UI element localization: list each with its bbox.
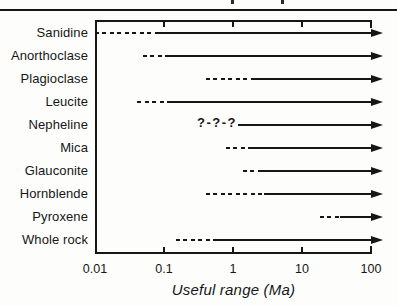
range-dashed-segment xyxy=(226,147,249,149)
arrow-right-icon xyxy=(371,121,383,129)
x-axis-tick-top xyxy=(301,22,303,27)
mineral-label: Plagioclase xyxy=(0,70,88,88)
range-row xyxy=(95,78,385,80)
range-dashed-segment xyxy=(176,239,215,241)
range-dashed-segment xyxy=(243,170,259,172)
range-solid-segment xyxy=(215,239,371,241)
mineral-label: Mica xyxy=(0,139,88,157)
x-axis-tick-label: 1 xyxy=(211,261,255,277)
cropped-text-fragment xyxy=(281,0,284,4)
mineral-label: Nepheline xyxy=(0,116,88,134)
x-axis-tick-label: 0.1 xyxy=(142,261,186,277)
range-dashed-segment xyxy=(95,32,157,34)
range-dashed-segment xyxy=(143,55,169,57)
x-axis-tick-labels: 0.010.1110100 xyxy=(0,261,397,277)
range-dashed-segment xyxy=(137,101,170,103)
x-axis-tick-bottom xyxy=(232,247,234,252)
range-solid-segment xyxy=(249,147,371,149)
plot-corner-bottom-right xyxy=(370,246,372,254)
x-axis-title: Useful range (Ma) xyxy=(95,281,372,298)
x-axis-tick-label: 0.01 xyxy=(73,261,117,277)
page-rule xyxy=(0,9,397,11)
range-solid-segment xyxy=(259,170,371,172)
arrow-right-icon xyxy=(371,236,383,244)
x-axis-tick-label: 100 xyxy=(349,261,393,277)
range-solid-segment xyxy=(264,193,371,195)
mineral-label: Pyroxene xyxy=(0,208,88,226)
arrow-right-icon xyxy=(371,29,383,37)
mineral-label: Hornblende xyxy=(0,185,88,203)
range-row xyxy=(95,170,385,172)
range-row xyxy=(95,32,385,34)
range-solid-segment xyxy=(340,216,371,218)
range-solid-segment xyxy=(157,32,371,34)
mineral-label: Leucite xyxy=(0,93,88,111)
range-solid-segment xyxy=(255,78,371,80)
query-marks: ?-?-? xyxy=(197,115,237,131)
arrow-right-icon xyxy=(371,167,383,175)
plot-area: ?-?-? xyxy=(95,20,385,254)
mineral-label: Whole rock xyxy=(0,231,88,249)
cropped-text-fragment xyxy=(231,0,234,4)
x-axis-tick-top xyxy=(163,22,165,27)
range-solid-segment xyxy=(169,101,371,103)
range-solid-segment xyxy=(169,55,371,57)
range-row xyxy=(95,55,385,57)
x-axis-tick-bottom xyxy=(301,247,303,252)
range-row xyxy=(95,101,385,103)
range-row xyxy=(95,193,385,195)
arrow-right-icon xyxy=(371,75,383,83)
range-row xyxy=(95,239,385,241)
range-dashed-segment xyxy=(320,216,340,218)
arrow-right-icon xyxy=(371,52,383,60)
arrow-right-icon xyxy=(371,190,383,198)
range-row xyxy=(95,147,385,149)
mineral-label: Anorthoclase xyxy=(0,47,88,65)
mineral-label-column: SanidineAnorthoclasePlagioclaseLeuciteNe… xyxy=(0,20,88,254)
range-solid-segment xyxy=(238,124,371,126)
x-axis-line xyxy=(95,252,372,254)
arrow-right-icon xyxy=(371,213,383,221)
figure-container: SanidineAnorthoclasePlagioclaseLeuciteNe… xyxy=(0,0,397,306)
x-axis-tick-bottom xyxy=(163,247,165,252)
mineral-label: Sanidine xyxy=(0,24,88,42)
range-row: ?-?-? xyxy=(95,124,385,126)
range-dashed-segment xyxy=(206,78,256,80)
arrow-right-icon xyxy=(371,144,383,152)
plot-corner-top-right xyxy=(370,20,372,28)
range-row xyxy=(95,216,385,218)
mineral-label: Glauconite xyxy=(0,162,88,180)
range-dashed-segment xyxy=(206,193,264,195)
arrow-right-icon xyxy=(371,98,383,106)
x-axis-tick-label: 10 xyxy=(280,261,324,277)
x-axis-tick-top xyxy=(232,22,234,27)
